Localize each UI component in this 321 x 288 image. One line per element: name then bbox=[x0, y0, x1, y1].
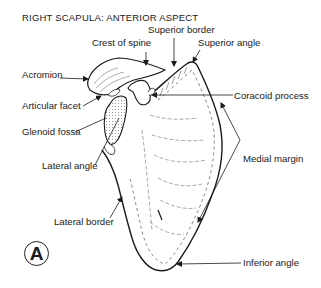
label-lateral-angle: Lateral angle bbox=[42, 160, 97, 171]
scapula-illustration bbox=[0, 0, 321, 288]
label-articular-facet: Articular facet bbox=[22, 100, 81, 111]
label-glenoid-fossa: Glenoid fossa bbox=[22, 126, 81, 137]
panel-letter-badge: A bbox=[24, 241, 49, 266]
scapula-body bbox=[102, 62, 222, 271]
label-superior-angle: Superior angle bbox=[198, 37, 260, 48]
label-medial-margin: Medial margin bbox=[243, 153, 303, 164]
scapula-diagram: RIGHT SCAPULA: ANTERIOR ASPECT bbox=[0, 0, 321, 288]
label-crest-of-spine: Crest of spine bbox=[92, 37, 151, 48]
label-inferior-angle: Inferior angle bbox=[243, 257, 299, 268]
label-coracoid-process: Coracoid process bbox=[234, 90, 309, 101]
label-lateral-border: Lateral border bbox=[54, 216, 114, 227]
label-superior-border: Superior border bbox=[148, 24, 215, 35]
label-acromion: Acromion bbox=[22, 69, 63, 80]
coracoid-process bbox=[128, 80, 155, 104]
